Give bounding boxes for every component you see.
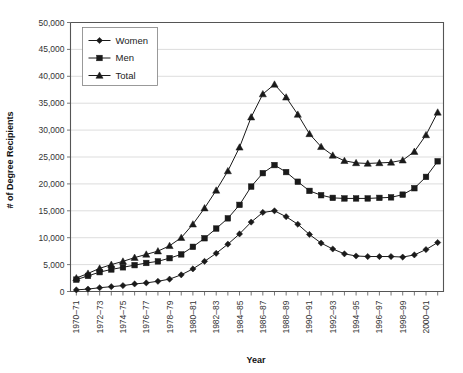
y-tick-label: 20,000 <box>39 179 65 189</box>
x-axis-tick-marks <box>76 292 437 296</box>
data-point-men <box>260 170 266 176</box>
data-point-men <box>435 159 441 165</box>
data-point-women <box>435 239 441 245</box>
x-tick-label: 2000–01 <box>421 300 431 333</box>
data-point-men <box>388 195 394 201</box>
data-point-women <box>271 208 277 214</box>
data-point-men <box>353 196 359 202</box>
y-tick-label: 10,000 <box>39 233 65 243</box>
data-point-men <box>342 196 348 202</box>
x-tick-label: 1984–85 <box>235 300 245 333</box>
data-point-women <box>155 278 161 284</box>
legend-marker-square <box>97 55 103 61</box>
data-point-men <box>167 255 173 261</box>
legend-item-label: Men <box>116 52 134 63</box>
data-point-total <box>329 152 336 158</box>
series-women <box>73 208 441 293</box>
data-point-total <box>422 131 429 137</box>
data-point-women <box>283 214 289 220</box>
x-tick-label: 1980–81 <box>188 300 198 333</box>
data-point-total <box>271 81 278 87</box>
data-point-women <box>365 253 371 259</box>
data-series-layer <box>73 81 441 293</box>
x-tick-label: 1970–71 <box>71 300 81 333</box>
x-tick-label: 1974–75 <box>118 300 128 333</box>
legend-item-label: Women <box>116 35 149 46</box>
x-tick-label: 1982–83 <box>211 300 221 333</box>
data-point-women <box>108 284 114 290</box>
data-point-women <box>201 258 207 264</box>
data-point-women <box>423 246 429 252</box>
data-point-women <box>411 252 417 258</box>
legend-item-label: Total <box>116 70 136 81</box>
data-point-total <box>434 109 441 115</box>
x-tick-label: 1972–73 <box>95 300 105 333</box>
y-tick-label: 0 <box>60 287 65 297</box>
data-point-men <box>237 202 243 208</box>
data-point-total <box>306 130 313 136</box>
chart-legend: WomenMenTotal <box>83 28 158 86</box>
data-point-men <box>400 192 406 198</box>
data-point-women <box>97 285 103 291</box>
y-tick-label: 40,000 <box>39 71 65 81</box>
x-axis-title: Year <box>246 355 266 365</box>
data-point-total <box>166 242 173 248</box>
line-chart: 50,00045,00040,00035,00030,00025,00020,0… <box>0 0 463 373</box>
x-tick-label: 1990–91 <box>304 300 314 333</box>
data-point-men <box>143 260 149 266</box>
data-point-men <box>213 226 219 232</box>
y-tick-label: 50,000 <box>39 18 65 28</box>
data-point-total <box>341 157 348 163</box>
x-tick-label: 1994–95 <box>351 300 361 333</box>
x-tick-label: 1986–87 <box>258 300 268 333</box>
data-point-women <box>73 287 79 293</box>
data-point-women <box>178 272 184 278</box>
data-point-women <box>120 282 126 288</box>
x-tick-label: 1988–89 <box>281 300 291 333</box>
data-point-men <box>412 185 418 191</box>
data-point-total <box>248 114 255 120</box>
x-tick-label: 1992–93 <box>328 300 338 333</box>
data-point-men <box>248 184 254 190</box>
data-point-men <box>178 252 184 258</box>
data-point-men <box>283 169 289 175</box>
x-tick-label: 1976–77 <box>141 300 151 333</box>
data-point-men <box>190 244 196 250</box>
data-point-women <box>330 246 336 252</box>
data-point-men <box>272 162 278 168</box>
data-point-women <box>190 266 196 272</box>
data-point-men <box>202 235 208 241</box>
chart-container: 50,00045,00040,00035,00030,00025,00020,0… <box>0 0 463 373</box>
series-line-total <box>76 84 437 278</box>
x-tick-label: 1998–99 <box>398 300 408 333</box>
data-point-men <box>423 174 429 180</box>
data-point-total <box>201 205 208 211</box>
data-point-total <box>154 248 161 254</box>
data-point-total <box>236 144 243 150</box>
data-point-total <box>224 167 231 173</box>
data-point-men <box>225 216 231 222</box>
data-point-women <box>353 253 359 259</box>
x-tick-label: 1978–79 <box>165 300 175 333</box>
y-tick-label: 30,000 <box>39 125 65 135</box>
data-point-men <box>307 188 313 194</box>
data-point-women <box>132 281 138 287</box>
data-point-men <box>155 259 161 265</box>
series-line-women <box>76 211 437 290</box>
y-axis-title: # of Degree Recipients <box>5 111 15 208</box>
data-point-men <box>365 196 371 202</box>
y-tick-label: 45,000 <box>39 44 65 54</box>
data-point-men <box>377 195 383 201</box>
data-point-women <box>143 280 149 286</box>
data-point-total <box>411 148 418 154</box>
data-point-men <box>295 179 301 185</box>
y-tick-label: 35,000 <box>39 98 65 108</box>
data-point-total <box>213 187 220 193</box>
data-point-men <box>318 192 324 198</box>
data-point-total <box>399 157 406 163</box>
data-point-women <box>388 253 394 259</box>
series-line-men <box>76 161 437 279</box>
x-tick-label: 1996–97 <box>374 300 384 333</box>
y-tick-label: 15,000 <box>39 206 65 216</box>
data-point-men <box>330 195 336 201</box>
